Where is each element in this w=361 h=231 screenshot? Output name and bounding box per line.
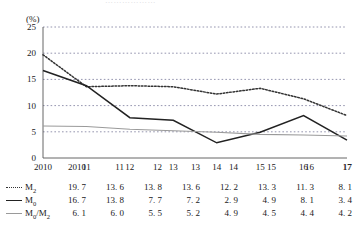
- legend-marker-dotted: [6, 187, 22, 188]
- legend-label: M0/M2: [25, 208, 50, 218]
- table-cell: 8. 1: [314, 182, 352, 192]
- table-cell: 5. 2: [162, 208, 200, 218]
- table-cell: 6. 1: [48, 208, 86, 218]
- series-line-M0/M2: [43, 126, 347, 136]
- table-row: M0/M26. 16. 05. 55. 24. 94. 54. 44. 2: [0, 208, 361, 221]
- plot-area: (%) 0510152025 201011121314151617: [0, 10, 361, 162]
- table-col-header-12: 12: [124, 162, 162, 172]
- table-cell: 2. 9: [200, 195, 238, 205]
- table-cell: 13. 8: [86, 195, 124, 205]
- table-col-header-11: 11: [86, 162, 124, 172]
- table-cell: 4. 9: [200, 208, 238, 218]
- table-cell: 6. 0: [86, 208, 124, 218]
- table-cell: 4. 2: [314, 208, 352, 218]
- series-line-M2: [43, 55, 347, 116]
- table-cell: 13. 8: [124, 182, 162, 192]
- table-cell: 11. 3: [276, 182, 314, 192]
- table-cell: 4. 4: [276, 208, 314, 218]
- table-cell: 13. 6: [162, 182, 200, 192]
- legend-marker-gray: [6, 213, 22, 214]
- table-cell: 7. 7: [124, 195, 162, 205]
- table-col-header-13: 13: [162, 162, 200, 172]
- table-cell: 13. 3: [238, 182, 276, 192]
- data-table: 201011121314151617 M219. 713. 613. 813. …: [0, 182, 361, 231]
- chart-page: ……………… (%) 0510152025 201011121314151617…: [0, 0, 361, 231]
- table-cell: 5. 5: [124, 208, 162, 218]
- table-cell: 16. 7: [48, 195, 86, 205]
- y-tick-15: 15: [14, 74, 36, 84]
- table-cell: 4. 9: [238, 195, 276, 205]
- y-tick-25: 25: [14, 22, 36, 32]
- table-cell: 4. 5: [238, 208, 276, 218]
- table-cell: 3. 4: [314, 195, 352, 205]
- y-tick-10: 10: [14, 101, 36, 111]
- title-fragment: ………………: [105, 0, 156, 5]
- table-row: M219. 713. 613. 813. 612. 213. 311. 38. …: [0, 182, 361, 195]
- cut-off-title: ………………: [0, 0, 361, 10]
- table-col-header-15: 15: [238, 162, 276, 172]
- table-col-header-2010: 2010: [48, 162, 86, 172]
- chart-svg: [0, 10, 361, 162]
- table-cell: 8. 1: [276, 195, 314, 205]
- y-tick-20: 20: [14, 48, 36, 58]
- table-col-header-14: 14: [200, 162, 238, 172]
- table-col-header-16: 16: [276, 162, 314, 172]
- table-cell: 13. 6: [86, 182, 124, 192]
- legend-marker-solid: [6, 200, 22, 201]
- legend-label: M2: [25, 182, 36, 192]
- table-col-header-17: 17: [314, 162, 352, 172]
- table-header-row: 201011121314151617: [0, 162, 361, 175]
- table-cell: 19. 7: [48, 182, 86, 192]
- y-tick-5: 5: [14, 127, 36, 137]
- table-row: M016. 713. 87. 77. 22. 94. 98. 13. 4: [0, 195, 361, 208]
- table-cell: 7. 2: [162, 195, 200, 205]
- legend-label: M0: [25, 195, 36, 205]
- table-cell: 12. 2: [200, 182, 238, 192]
